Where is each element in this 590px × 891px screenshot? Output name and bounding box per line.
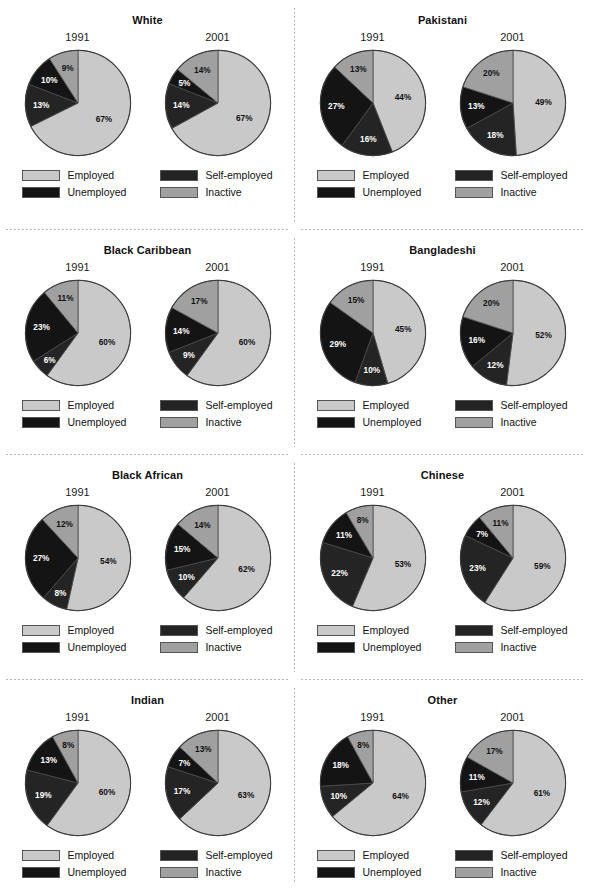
- slice-value-label: 49%: [535, 98, 552, 107]
- legend-label-inactive: Inactive: [500, 416, 536, 428]
- legend-item-unemployed: Unemployed: [22, 186, 126, 198]
- pie-wrap: 63%17%7%13%: [162, 727, 274, 839]
- legend-label-employed: Employed: [67, 624, 114, 636]
- pie-year-label: 1991: [65, 486, 89, 499]
- legend: EmployedSelf-employedUnemployedInactive: [317, 169, 567, 198]
- pie-2001: 62%10%15%14%: [162, 502, 274, 614]
- slice-value-label: 17%: [486, 747, 503, 756]
- pie-1991: 60%19%13%8%: [22, 727, 134, 839]
- legend-item-self_employed: Self-employed: [160, 399, 272, 411]
- slice-value-label: 16%: [468, 336, 485, 345]
- legend-swatch-self_employed: [455, 850, 493, 861]
- pie-block-1991: 199160%19%13%8%: [22, 711, 134, 839]
- slice-value-label: 53%: [394, 560, 411, 569]
- pie-year-label: 2001: [205, 711, 229, 724]
- legend-label-unemployed: Unemployed: [362, 416, 421, 428]
- legend-swatch-inactive: [160, 867, 198, 878]
- legend-label-unemployed: Unemployed: [67, 416, 126, 428]
- legend-swatch-inactive: [160, 187, 198, 198]
- panel-black-caribbean: Black Caribbean199160%6%23%11%200160%9%1…: [0, 230, 295, 455]
- legend-label-unemployed: Unemployed: [67, 186, 126, 198]
- legend-label-self_employed: Self-employed: [500, 399, 567, 411]
- pie-pair: 199167%13%10%9%200167%14%5%14%: [0, 31, 295, 159]
- legend-swatch-self_employed: [160, 850, 198, 861]
- legend-item-inactive: Inactive: [455, 416, 567, 428]
- legend-item-employed: Employed: [317, 399, 421, 411]
- slice-value-label: 10%: [178, 573, 195, 582]
- pie-1991: 54%8%27%12%: [22, 502, 134, 614]
- legend-swatch-inactive: [455, 417, 493, 428]
- legend-swatch-unemployed: [22, 187, 60, 198]
- panel-title: Bangladeshi: [409, 244, 476, 257]
- slice-value-label: 11%: [57, 294, 74, 303]
- legend-label-self_employed: Self-employed: [205, 624, 272, 636]
- slice-value-label: 8%: [356, 516, 369, 525]
- slice-value-label: 12%: [473, 798, 490, 807]
- legend-label-employed: Employed: [67, 169, 114, 181]
- legend-item-unemployed: Unemployed: [317, 641, 421, 653]
- pie-block-2001: 200163%17%7%13%: [162, 711, 274, 839]
- legend-swatch-employed: [22, 170, 60, 181]
- slice-value-label: 6%: [43, 356, 56, 365]
- pie-block-1991: 199145%10%29%15%: [317, 261, 429, 389]
- slice-value-label: 7%: [178, 759, 191, 768]
- slice-value-label: 29%: [329, 340, 346, 349]
- pie-wrap: 64%10%18%8%: [317, 727, 429, 839]
- pie-year-label: 1991: [360, 261, 384, 274]
- panel-other: Other199164%10%18%8%200161%12%11%17%Empl…: [295, 680, 590, 891]
- pie-year-label: 1991: [360, 486, 384, 499]
- legend-label-unemployed: Unemployed: [67, 866, 126, 878]
- legend-swatch-employed: [22, 400, 60, 411]
- slice-value-label: 45%: [394, 325, 411, 334]
- legend-label-inactive: Inactive: [500, 186, 536, 198]
- pie-block-2001: 200162%10%15%14%: [162, 486, 274, 614]
- legend-item-self_employed: Self-employed: [160, 169, 272, 181]
- slice-value-label: 59%: [534, 562, 551, 571]
- pie-pair: 199144%16%27%13%200149%18%13%20%: [295, 31, 590, 159]
- slice-value-label: 11%: [492, 519, 509, 528]
- panel-pakistani: Pakistani199144%16%27%13%200149%18%13%20…: [295, 0, 590, 230]
- pie-wrap: 67%14%5%14%: [162, 47, 274, 159]
- legend: EmployedSelf-employedUnemployedInactive: [317, 624, 567, 653]
- pie-wrap: 60%6%23%11%: [22, 277, 134, 389]
- legend-label-self_employed: Self-employed: [500, 624, 567, 636]
- pie-2001: 59%23%7%11%: [457, 502, 569, 614]
- slice-value-label: 8%: [54, 589, 67, 598]
- pie-wrap: 54%8%27%12%: [22, 502, 134, 614]
- slice-value-label: 16%: [360, 135, 377, 144]
- legend-item-employed: Employed: [317, 169, 421, 181]
- panel-indian: Indian199160%19%13%8%200163%17%7%13%Empl…: [0, 680, 295, 891]
- pie-wrap: 62%10%15%14%: [162, 502, 274, 614]
- legend-item-unemployed: Unemployed: [317, 866, 421, 878]
- legend-item-self_employed: Self-employed: [455, 169, 567, 181]
- panel-title: Pakistani: [418, 14, 467, 27]
- slice-value-label: 5%: [178, 79, 191, 88]
- slice-value-label: 23%: [469, 564, 486, 573]
- slice-value-label: 27%: [328, 102, 345, 111]
- slice-value-label: 14%: [194, 521, 211, 530]
- pie-wrap: 61%12%11%17%: [457, 727, 569, 839]
- slice-value-label: 61%: [533, 789, 550, 798]
- pie-wrap: 45%10%29%15%: [317, 277, 429, 389]
- legend-swatch-self_employed: [160, 625, 198, 636]
- pie-2001: 67%14%5%14%: [162, 47, 274, 159]
- legend-swatch-self_employed: [455, 625, 493, 636]
- legend-swatch-unemployed: [317, 867, 355, 878]
- slice-value-label: 13%: [32, 101, 49, 110]
- slice-value-label: 52%: [535, 331, 552, 340]
- pie-wrap: 60%9%14%17%: [162, 277, 274, 389]
- legend-label-unemployed: Unemployed: [362, 866, 421, 878]
- legend-label-unemployed: Unemployed: [67, 641, 126, 653]
- legend-item-employed: Employed: [317, 624, 421, 636]
- legend-label-self_employed: Self-employed: [205, 169, 272, 181]
- pie-block-1991: 199154%8%27%12%: [22, 486, 134, 614]
- slice-value-label: 20%: [483, 299, 500, 308]
- pie-block-2001: 200159%23%7%11%: [457, 486, 569, 614]
- legend-item-inactive: Inactive: [455, 866, 567, 878]
- slice-value-label: 27%: [32, 554, 49, 563]
- slice-value-label: 8%: [62, 741, 75, 750]
- pie-block-2001: 200152%12%16%20%: [457, 261, 569, 389]
- legend: EmployedSelf-employedUnemployedInactive: [22, 399, 272, 428]
- pie-2001: 49%18%13%20%: [457, 47, 569, 159]
- slice-value-label: 60%: [98, 338, 115, 347]
